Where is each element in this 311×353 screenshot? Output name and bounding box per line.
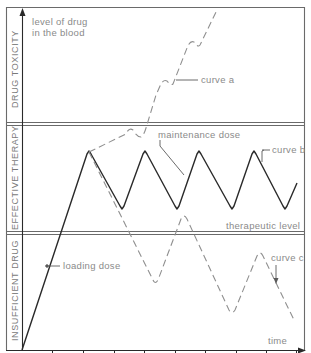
band-dividers: [6, 123, 305, 235]
therapeutic-level-label: therapeutic level: [226, 220, 300, 231]
drug-level-diagram: DRUG TOXICITY EFFECTIVE THERAPY INSUFFIC…: [0, 0, 311, 353]
time-axis-label: time: [268, 335, 287, 346]
curve-c-line: [89, 152, 294, 320]
curve-b-line: [22, 151, 297, 350]
curve-a-label: curve a: [201, 74, 234, 85]
maintenance-dose-label: maintenance dose: [158, 129, 240, 140]
y-axis: [20, 8, 26, 350]
outer-frame: [6, 7, 305, 350]
band-label-drug-toxicity: DRUG TOXICITY: [10, 30, 20, 108]
curve-b-label: curve b: [272, 144, 305, 155]
loading-dose-label: loading dose: [63, 260, 120, 271]
y-axis-label-line2: in the blood: [32, 27, 85, 38]
diagram-canvas: [0, 0, 311, 353]
y-axis-label: level of drug: [32, 16, 88, 27]
band-label-insufficient-drug: INSUFFICIENT DRUG: [10, 240, 20, 341]
curve-c-label: curve c: [271, 252, 304, 263]
band-label-effective-therapy: EFFECTIVE THERAPY: [10, 125, 20, 230]
y-axis-arrow-icon: [20, 8, 26, 16]
